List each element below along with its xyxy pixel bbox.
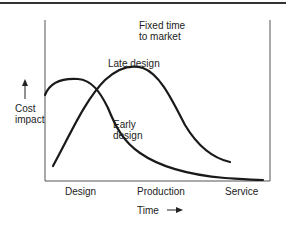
early-design-curve: [45, 79, 263, 180]
x-axis-label: Time: [137, 205, 159, 216]
y-axis-label-line-2: impact: [15, 114, 44, 125]
phase-service-label: Service: [225, 186, 258, 197]
fixed-time-annotation: Fixed time to market: [139, 20, 185, 42]
y-axis-label: Cost impact: [15, 103, 44, 125]
phase-design-label: Design: [65, 186, 96, 197]
late-design-curve: [53, 67, 230, 167]
phase-production-label: Production: [137, 186, 185, 197]
y-axis-label-line-1: Cost: [15, 103, 44, 114]
annotation-line-2: to market: [139, 31, 185, 42]
up-arrow-icon: [22, 79, 28, 99]
early-design-label: Early design: [113, 119, 142, 141]
early-design-label-line-1: Early: [113, 119, 142, 130]
chart-frame: [45, 20, 270, 181]
annotation-line-1: Fixed time: [139, 20, 185, 31]
early-design-label-line-2: design: [113, 130, 142, 141]
late-design-label: Late design: [108, 58, 160, 69]
right-arrow-icon: [167, 207, 183, 213]
